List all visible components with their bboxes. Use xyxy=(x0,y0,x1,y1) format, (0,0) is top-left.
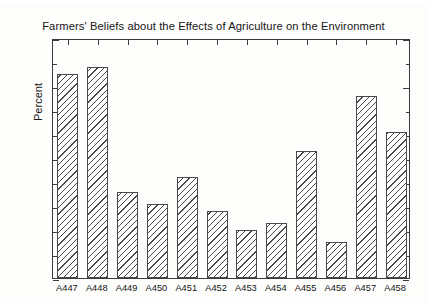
x-tick-label: A452 xyxy=(205,283,227,293)
x-tick xyxy=(68,40,69,45)
x-tick-label: A456 xyxy=(325,283,347,293)
y-tick-minor xyxy=(406,112,410,113)
x-tick xyxy=(187,40,188,45)
y-tick-major xyxy=(403,40,409,41)
x-tick xyxy=(366,40,367,45)
y-tick-minor xyxy=(53,112,57,113)
x-tick xyxy=(98,40,99,45)
bar xyxy=(147,204,168,278)
x-tick-label: A455 xyxy=(295,283,317,293)
x-tick-label: A450 xyxy=(146,283,168,293)
bar xyxy=(296,151,317,278)
plot-area xyxy=(52,39,410,279)
bar xyxy=(326,242,347,278)
x-tick-label: A458 xyxy=(384,283,406,293)
bar xyxy=(266,223,287,278)
x-tick-label: A457 xyxy=(354,283,376,293)
x-tick-label: A451 xyxy=(175,283,197,293)
y-tick-minor xyxy=(53,208,57,209)
y-tick-major xyxy=(53,40,59,41)
bar xyxy=(236,230,257,278)
bar xyxy=(87,67,108,278)
x-tick-label: A448 xyxy=(86,283,108,293)
chart-title: Farmers' Beliefs about the Effects of Ag… xyxy=(0,20,427,32)
bar xyxy=(57,74,78,278)
x-tick xyxy=(307,40,308,45)
bar xyxy=(386,132,407,278)
x-tick xyxy=(336,40,337,45)
x-tick-label: A453 xyxy=(235,283,257,293)
x-tick xyxy=(217,40,218,45)
x-tick-label: A454 xyxy=(265,283,287,293)
y-tick-major xyxy=(403,280,409,281)
y-tick-major xyxy=(403,88,409,89)
y-tick-major xyxy=(53,280,59,281)
bar xyxy=(177,177,198,278)
bar xyxy=(117,192,138,278)
x-tick xyxy=(157,40,158,45)
y-tick-minor xyxy=(406,64,410,65)
x-tick-label: A447 xyxy=(56,283,78,293)
x-tick xyxy=(277,40,278,45)
bar xyxy=(356,96,377,278)
y-tick-minor xyxy=(53,64,57,65)
x-tick-label: A449 xyxy=(116,283,138,293)
y-tick-minor xyxy=(53,256,57,257)
chart-container: Farmers' Beliefs about the Effects of Ag… xyxy=(0,0,427,303)
bar xyxy=(207,211,228,278)
y-axis-title: Percent xyxy=(32,42,44,162)
y-tick-minor xyxy=(53,160,57,161)
x-tick xyxy=(247,40,248,45)
x-tick xyxy=(128,40,129,45)
scan-edge xyxy=(0,0,427,3)
x-tick xyxy=(396,40,397,45)
